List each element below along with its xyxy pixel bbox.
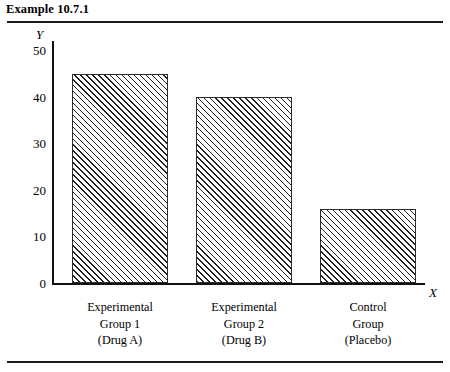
x-axis-category-line: Experimental <box>50 299 190 316</box>
x-axis-category-line: (Drug B) <box>174 332 314 349</box>
bar <box>320 209 416 283</box>
y-axis-tick-label: 0 <box>18 277 46 290</box>
figure-container: Example 10.7.1 Y X 01020304050 Experimen… <box>0 0 450 372</box>
bar-chart: Y X 01020304050 ExperimentalGroup 1(Drug… <box>0 0 450 372</box>
x-axis-category-label: ControlGroup(Placebo) <box>298 299 438 349</box>
y-axis-tick-label: 30 <box>18 137 46 150</box>
y-axis-tick-label: 10 <box>18 230 46 243</box>
x-axis-category-line: (Placebo) <box>298 332 438 349</box>
bottom-divider <box>7 361 443 363</box>
y-axis-label: Y <box>36 27 43 43</box>
bar <box>72 74 168 283</box>
x-axis <box>52 283 425 285</box>
x-axis-category-label: ExperimentalGroup 2(Drug B) <box>174 299 314 349</box>
bar <box>196 97 292 283</box>
x-axis-category-line: Group 2 <box>174 316 314 333</box>
x-axis-category-line: (Drug A) <box>50 332 190 349</box>
y-axis <box>52 41 54 284</box>
y-axis-tick-label: 50 <box>18 44 46 57</box>
x-axis-category-line: Group <box>298 316 438 333</box>
y-axis-tick-label: 40 <box>18 90 46 103</box>
x-axis-category-line: Group 1 <box>50 316 190 333</box>
y-axis-tick-label: 20 <box>18 183 46 196</box>
x-axis-category-line: Experimental <box>174 299 314 316</box>
x-axis-category-label: ExperimentalGroup 1(Drug A) <box>50 299 190 349</box>
x-axis-category-line: Control <box>298 299 438 316</box>
